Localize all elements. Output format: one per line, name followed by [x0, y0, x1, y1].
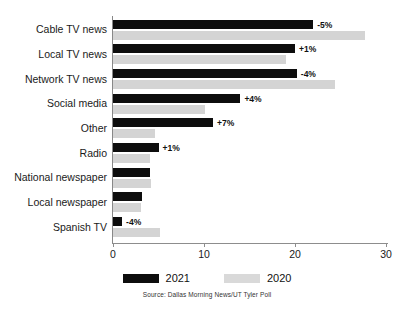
x-axis-tick: [295, 243, 296, 247]
bar-2020: [113, 179, 151, 188]
category-row: National newspaper: [113, 166, 386, 191]
bar-2021: [113, 168, 150, 177]
bar-2020: [113, 80, 335, 89]
bar-2020: [113, 203, 141, 212]
category-label: Other: [81, 123, 107, 135]
x-axis-tick: [386, 243, 387, 247]
category-row: Social media+4%: [113, 92, 386, 117]
category-label: Radio: [80, 148, 107, 160]
bar-value-label: +7%: [217, 119, 234, 128]
bar-2021: +4%: [113, 94, 240, 103]
legend-label-2020: 2020: [267, 272, 291, 284]
bar-2020: [113, 55, 286, 64]
category-label: Social media: [47, 99, 107, 111]
bar-value-label: +4%: [244, 95, 261, 104]
chart-legend: 2021 2020: [0, 272, 414, 284]
category-label: Local TV news: [38, 49, 107, 61]
source-note: Source: Dallas Morning News/UT Tyler Pol…: [0, 291, 414, 298]
bar-2021: +1%: [113, 44, 295, 53]
bar-2021: -4%: [113, 217, 122, 226]
bar-2021: -5%: [113, 20, 313, 29]
bar-2021: -4%: [113, 69, 297, 78]
bar-2020: [113, 31, 365, 40]
category-label: Network TV news: [25, 74, 107, 86]
x-axis-tick-label: 30: [380, 248, 392, 260]
bar-2021: +7%: [113, 118, 213, 127]
category-label: National newspaper: [14, 173, 107, 185]
black-swatch-icon: [123, 274, 159, 283]
bar-2020: [113, 154, 150, 163]
x-axis-tick-label: 10: [198, 248, 210, 260]
category-row: Local newspaper: [113, 191, 386, 216]
category-label: Local newspaper: [28, 197, 107, 209]
bar-2020: [113, 129, 155, 138]
category-row: Cable TV news-5%: [113, 18, 386, 43]
x-axis-tick: [113, 243, 114, 247]
legend-item-2020: 2020: [224, 272, 291, 284]
legend-item-2021: 2021: [123, 272, 190, 284]
category-row: Spanish TV-4%: [113, 215, 386, 240]
bar-2021: +1%: [113, 143, 159, 152]
category-row: Local TV news+1%: [113, 43, 386, 68]
bar-2020: [113, 105, 205, 114]
gray-swatch-icon: [224, 274, 260, 283]
bar-value-label: -4%: [301, 70, 316, 79]
bar-value-label: -5%: [317, 21, 332, 30]
bar-2020: [113, 228, 160, 237]
x-axis-tick-label: 20: [289, 248, 301, 260]
legend-label-2021: 2021: [166, 272, 190, 284]
category-label: Cable TV news: [36, 25, 107, 37]
bar-value-label: -4%: [126, 218, 141, 227]
bar-2021: [113, 192, 142, 201]
bar-value-label: +1%: [299, 45, 316, 54]
category-label: Spanish TV: [53, 222, 107, 234]
plot-area: Cable TV news-5%Local TV news+1%Network …: [113, 18, 386, 240]
bar-value-label: +1%: [163, 144, 180, 153]
category-row: Network TV news-4%: [113, 67, 386, 92]
x-axis-tick: [204, 243, 205, 247]
category-row: Other+7%: [113, 117, 386, 142]
category-row: Radio+1%: [113, 141, 386, 166]
x-axis-line: [112, 243, 388, 244]
x-axis-tick-label: 0: [110, 248, 116, 260]
bar-chart: Cable TV news-5%Local TV news+1%Network …: [0, 0, 414, 311]
